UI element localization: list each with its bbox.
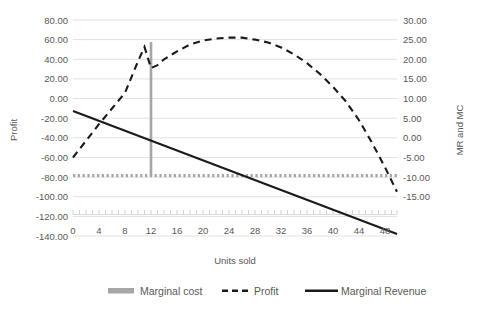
- x-tick-label: 48: [380, 225, 391, 236]
- legend-label-profit: Profit: [254, 285, 279, 297]
- y2-tick-label: -10.00: [403, 172, 430, 183]
- x-tick-label: 12: [146, 225, 157, 236]
- x-tick-label: 36: [302, 225, 313, 236]
- x-tick-label: 4: [96, 225, 101, 236]
- x-axis-minor-ticks: [73, 210, 397, 215]
- y-tick-label: -20.00: [41, 113, 68, 124]
- y-tick-label: -60.00: [41, 152, 68, 163]
- y-tick-label: 0.00: [50, 93, 69, 104]
- chart-container: 80.00 60.00 40.00 20.00 0.00 -20.00 -40.…: [0, 0, 480, 317]
- x-tick-label: 20: [198, 225, 209, 236]
- y2-tick-label: -5.00: [403, 152, 425, 163]
- y-axis-title: Profit: [8, 119, 19, 142]
- y-tick-label: -100.00: [36, 191, 68, 202]
- y-tick-label: -40.00: [41, 132, 68, 143]
- x-tick-label: 40: [328, 225, 339, 236]
- y2-tick-label: 0.00: [403, 132, 422, 143]
- x-tick-label: 44: [354, 225, 365, 236]
- legend: Marginal cost Profit Marginal Revenue: [108, 285, 426, 297]
- y2-tick-label: -15.00: [403, 191, 430, 202]
- legend-marker-marginal-cost: [108, 288, 134, 294]
- y2-tick-label: 15.00: [403, 73, 427, 84]
- y-tick-label: 40.00: [44, 54, 68, 65]
- y2-tick-label: 10.00: [403, 93, 427, 104]
- x-axis-ticks: 0 4 8 12 16 20 24 28 32 36 40 44 48: [70, 225, 390, 236]
- series-profit: [73, 38, 397, 192]
- x-tick-label: 8: [122, 225, 127, 236]
- y-tick-label: 20.00: [44, 73, 68, 84]
- y-axis-right-ticks: 30.00 25.00 20.00 15.00 10.00 5.00 0.00 …: [403, 15, 430, 203]
- y-axis-left-ticks: 80.00 60.00 40.00 20.00 0.00 -20.00 -40.…: [36, 15, 68, 242]
- y2-axis-title: MR and MC: [454, 105, 465, 156]
- gridlines: [73, 20, 397, 236]
- y2-tick-label: 25.00: [403, 34, 427, 45]
- x-tick-label: 0: [70, 225, 75, 236]
- y-tick-label: -120.00: [36, 211, 68, 222]
- y-tick-label: -140.00: [36, 231, 68, 242]
- y2-tick-label: 20.00: [403, 54, 427, 65]
- legend-label-marginal-revenue: Marginal Revenue: [341, 285, 426, 297]
- series-marginal-revenue: [73, 111, 397, 234]
- x-tick-label: 16: [172, 225, 183, 236]
- x-axis-title: Units sold: [214, 255, 256, 266]
- y2-tick-label: 5.00: [403, 113, 422, 124]
- y-tick-label: 80.00: [44, 15, 68, 26]
- y-tick-label: 60.00: [44, 34, 68, 45]
- y-tick-label: -80.00: [41, 172, 68, 183]
- chart-svg: 80.00 60.00 40.00 20.00 0.00 -20.00 -40.…: [0, 0, 480, 317]
- x-tick-label: 32: [276, 225, 287, 236]
- x-axis: [73, 210, 397, 215]
- x-tick-label: 24: [224, 225, 235, 236]
- legend-label-marginal-cost: Marginal cost: [140, 285, 203, 297]
- y2-tick-label: 30.00: [403, 15, 427, 26]
- x-tick-label: 28: [250, 225, 261, 236]
